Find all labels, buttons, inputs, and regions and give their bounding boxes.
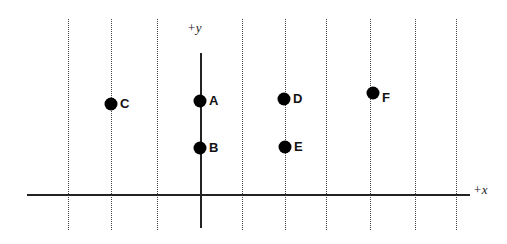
grid-line [370, 19, 371, 230]
y-axis-label: +y [187, 20, 202, 36]
point-label-a: A [209, 93, 218, 108]
point-label-f: F [382, 90, 390, 105]
grid-line [456, 19, 457, 230]
point-e [279, 141, 292, 154]
x-axis [27, 194, 470, 196]
point-c [105, 98, 118, 111]
grid-line [415, 19, 416, 230]
point-label-c: C [120, 96, 129, 111]
point-label-d: D [293, 91, 302, 106]
grid-line [285, 19, 286, 230]
grid-line [242, 19, 243, 230]
x-axis-label: +x [473, 182, 488, 198]
point-label-e: E [294, 139, 303, 154]
point-a [194, 95, 207, 108]
point-d [278, 93, 291, 106]
grid-line [326, 19, 327, 230]
coordinate-diagram: +x +y ABCDEF [0, 0, 507, 244]
point-f [367, 87, 380, 100]
grid-line [111, 19, 112, 230]
point-label-b: B [209, 140, 218, 155]
point-b [194, 142, 207, 155]
grid-line [157, 19, 158, 230]
grid-line [68, 19, 69, 230]
y-axis [200, 53, 202, 228]
